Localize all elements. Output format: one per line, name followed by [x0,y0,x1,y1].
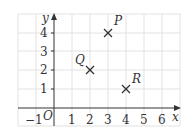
x-tick-label: 4 [122,113,130,127]
x-tick-label: 3 [104,113,112,127]
y-axis-label: y [41,11,49,25]
y-tick-label: 3 [40,45,48,59]
origin-label: O [43,109,53,123]
x-tick-label: 2 [86,113,94,127]
y-tick-label: 4 [40,26,48,40]
point-label-R: R [131,72,141,86]
y-tick-label: 1 [40,82,48,96]
x-tick-label: −1 [25,113,43,127]
x-tick-label: 1 [68,113,76,127]
x-axis-label: x [172,110,179,124]
coordinate-diagram: y x O 4 3 2 1 −1 1 2 3 4 5 6 P Q R [0,0,187,134]
x-tick-label: 5 [140,113,148,127]
point-label-P: P [113,14,123,28]
y-tick-label: 2 [40,63,48,77]
point-label-Q: Q [75,53,85,67]
x-tick-label: 6 [158,113,166,127]
